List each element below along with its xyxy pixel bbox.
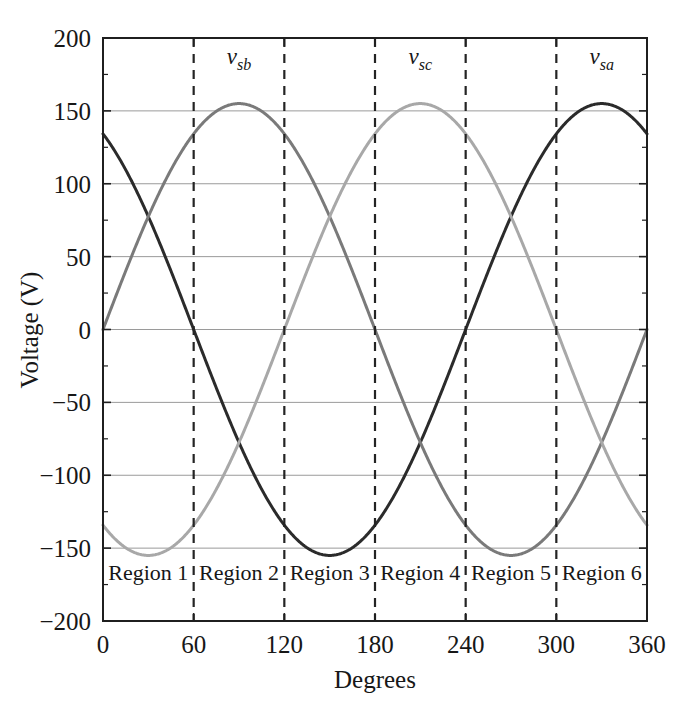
series-label-subscript: sc (419, 56, 432, 73)
x-tick-label-300: 300 (538, 631, 576, 658)
x-tick-label-60: 60 (181, 631, 206, 658)
y-tick-label-100: 100 (54, 171, 92, 198)
series-label-subscript: sb (237, 56, 251, 73)
x-tick-label-180: 180 (356, 631, 394, 658)
region-label-6: Region 6 (562, 560, 642, 585)
region-label-4: Region 4 (380, 560, 460, 585)
region-label-5: Region 5 (471, 560, 551, 585)
region-label-3: Region 3 (290, 560, 370, 585)
x-tick-label-0: 0 (97, 631, 110, 658)
y-tick-label--100: −100 (39, 462, 91, 489)
region-label-1: Region 1 (108, 560, 188, 585)
y-tick-label-150: 150 (54, 98, 92, 125)
y-tick-label--150: −150 (39, 535, 91, 562)
y-axis-title: Voltage (V) (16, 272, 44, 389)
x-tick-label-240: 240 (447, 631, 485, 658)
y-tick-label--200: −200 (39, 608, 91, 635)
region-label-2: Region 2 (199, 560, 279, 585)
x-tick-label-360: 360 (628, 631, 666, 658)
y-tick-label--50: −50 (52, 389, 91, 416)
y-tick-label-0: 0 (79, 317, 92, 344)
series-label-subscript: sa (600, 56, 614, 73)
y-tick-label-200: 200 (54, 25, 92, 52)
figure-container: 200150100500−50−100−150−200 060120180240… (0, 0, 694, 708)
y-tick-label-50: 50 (66, 244, 91, 271)
x-axis-title: Degrees (334, 666, 416, 693)
three-phase-voltage-chart: 200150100500−50−100−150−200 060120180240… (0, 0, 694, 708)
x-tick-label-120: 120 (266, 631, 304, 658)
